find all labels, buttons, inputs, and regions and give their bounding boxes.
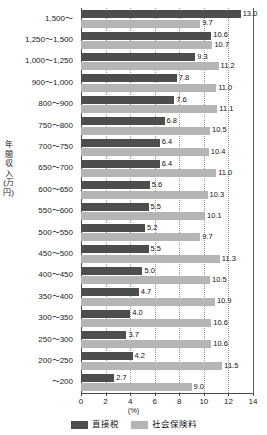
bar-value-direct-tax: 10.6 — [213, 31, 228, 39]
bar-direct-tax — [81, 224, 145, 232]
x-axis-tick — [155, 393, 156, 396]
bar-value-direct-tax: 6.4 — [162, 138, 172, 146]
bar-direct-tax — [81, 53, 195, 61]
bar-value-social-insurance: 10.4 — [211, 148, 226, 156]
legend-swatch-icon — [71, 421, 88, 429]
legend-label: 直接税 — [92, 420, 119, 429]
bar-direct-tax — [81, 374, 114, 382]
bar-value-social-insurance: 9.7 — [202, 19, 212, 27]
bar-social-insurance — [81, 255, 220, 263]
bar-social-insurance — [81, 148, 209, 156]
bar-direct-tax — [81, 310, 130, 318]
category-axis-labels: 1,500〜1,250〜1,5001,000〜1,250900〜1,000800… — [0, 8, 77, 393]
bar-value-social-insurance: 11.2 — [221, 62, 235, 70]
bar-social-insurance — [81, 41, 212, 49]
category-label: 300〜350 — [38, 313, 73, 323]
bar-value-direct-tax: 5.5 — [151, 203, 161, 211]
category-label: 1,500〜 — [45, 14, 73, 24]
bar-row: 9.311.2 — [81, 51, 253, 72]
x-axis-tick-label: 8 — [177, 397, 181, 406]
x-axis-tick — [81, 393, 82, 396]
legend-swatch-icon — [131, 421, 148, 429]
x-axis-tick-label: 12 — [224, 397, 233, 406]
bar-value-direct-tax: 4.2 — [135, 352, 145, 360]
x-axis-tick-label: 0 — [79, 397, 83, 406]
category-label: 200〜250 — [38, 356, 73, 366]
x-axis-title: (%) — [0, 406, 267, 415]
bar-direct-tax — [81, 160, 160, 168]
x-axis-tick — [204, 393, 205, 396]
bar-value-direct-tax: 6.4 — [162, 160, 172, 168]
bar-direct-tax — [81, 352, 133, 360]
category-label: 500〜550 — [38, 228, 73, 238]
bar-row: 4.010.6 — [81, 307, 253, 328]
bar-value-social-insurance: 10.6 — [213, 340, 228, 348]
bar-rows: 13.09.710.610.79.311.27.811.07.611.16.81… — [81, 8, 253, 393]
bar-row: 6.810.5 — [81, 115, 253, 136]
bar-row: 6.410.4 — [81, 136, 253, 157]
bar-social-insurance — [81, 340, 211, 348]
x-axis-tick-label: 14 — [249, 397, 258, 406]
bar-value-direct-tax: 5.2 — [147, 224, 157, 232]
bar-value-social-insurance: 9.7 — [202, 233, 212, 241]
bar-social-insurance — [81, 191, 208, 199]
bar-row: 7.611.1 — [81, 94, 253, 115]
legend: 直接税社会保険料 — [0, 420, 267, 429]
bar-value-direct-tax: 7.6 — [176, 96, 186, 104]
legend-label: 社会保険料 — [152, 420, 197, 429]
bar-value-direct-tax: 7.8 — [179, 74, 189, 82]
bar-value-direct-tax: 13.0 — [243, 10, 258, 18]
bar-value-social-insurance: 10.9 — [217, 297, 232, 305]
bar-social-insurance — [81, 127, 210, 135]
x-axis-line — [81, 393, 253, 394]
x-axis-tick-label: 6 — [152, 397, 156, 406]
bar-row: 4.211.5 — [81, 350, 253, 371]
bar-row: 5.511.3 — [81, 243, 253, 264]
legend-item[interactable]: 社会保険料 — [131, 420, 197, 429]
bar-row: 5.510.1 — [81, 201, 253, 222]
bar-direct-tax — [81, 139, 160, 147]
bar-value-social-insurance: 10.6 — [213, 319, 228, 327]
category-label: 250〜300 — [38, 335, 73, 345]
plot-area: 13.09.710.610.79.311.27.811.07.611.16.81… — [81, 8, 253, 393]
bar-social-insurance — [81, 105, 217, 113]
x-axis-tick — [228, 393, 229, 396]
bar-value-social-insurance: 11.5 — [224, 362, 238, 370]
category-label: 650〜700 — [38, 163, 73, 173]
category-label: 900〜1,000 — [32, 78, 73, 88]
bar-direct-tax — [81, 331, 126, 339]
bar-direct-tax — [81, 96, 174, 104]
bar-value-social-insurance: 10.5 — [212, 276, 227, 284]
bar-social-insurance — [81, 169, 216, 177]
x-axis-tick — [106, 393, 107, 396]
bar-row: 5.610.3 — [81, 179, 253, 200]
bar-value-social-insurance: 10.7 — [214, 41, 229, 49]
category-label: 700〜750 — [38, 142, 73, 152]
category-label: 750〜800 — [38, 121, 73, 131]
bar-value-direct-tax: 4.0 — [132, 309, 142, 317]
bar-direct-tax — [81, 117, 165, 125]
bar-social-insurance — [81, 298, 215, 306]
bar-direct-tax — [81, 10, 241, 18]
category-label: 1,000〜1,250 — [25, 56, 73, 66]
category-label: 400〜450 — [38, 270, 73, 280]
bar-row: 13.09.7 — [81, 8, 253, 29]
bar-row: 6.411.0 — [81, 158, 253, 179]
bar-social-insurance — [81, 362, 222, 370]
category-label: 550〜600 — [38, 206, 73, 216]
bar-direct-tax — [81, 181, 150, 189]
bar-value-social-insurance: 11.0 — [218, 84, 232, 92]
bar-row: 5.010.5 — [81, 265, 253, 286]
category-label: 600〜650 — [38, 185, 73, 195]
category-label: 450〜500 — [38, 249, 73, 259]
bar-value-direct-tax: 4.7 — [141, 288, 151, 296]
bar-social-insurance — [81, 212, 205, 220]
bar-value-social-insurance: 9.0 — [194, 383, 204, 391]
bar-value-direct-tax: 3.7 — [128, 331, 138, 339]
bar-social-insurance — [81, 84, 216, 92]
legend-item[interactable]: 直接税 — [71, 420, 119, 429]
bar-value-social-insurance: 11.0 — [218, 169, 232, 177]
bar-value-direct-tax: 5.6 — [152, 181, 162, 189]
category-label: 800〜900 — [38, 99, 73, 109]
bar-row: 4.710.9 — [81, 286, 253, 307]
